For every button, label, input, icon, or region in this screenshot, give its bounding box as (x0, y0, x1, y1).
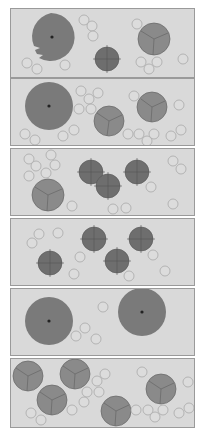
large-notched-cell (32, 13, 75, 61)
small-cells (71, 302, 108, 344)
spiky-cells (77, 158, 151, 200)
cell-scene-2 (11, 79, 195, 146)
cell-scene-4 (11, 219, 195, 286)
panel-6 (10, 358, 195, 428)
segmented-cell (138, 23, 170, 55)
segmented-cell (32, 179, 64, 211)
spiky-cell (93, 45, 121, 73)
panel-2 (10, 78, 195, 146)
large-notched-cell (25, 82, 73, 130)
panel-5 (10, 288, 195, 356)
cell-scene-5 (11, 289, 195, 356)
panel-1 (10, 8, 195, 78)
cell-scene-1 (11, 9, 195, 78)
cell-scene-3 (11, 149, 195, 216)
panel-4 (10, 218, 195, 286)
cell-scene-6 (11, 359, 195, 428)
panel-3 (10, 148, 195, 216)
